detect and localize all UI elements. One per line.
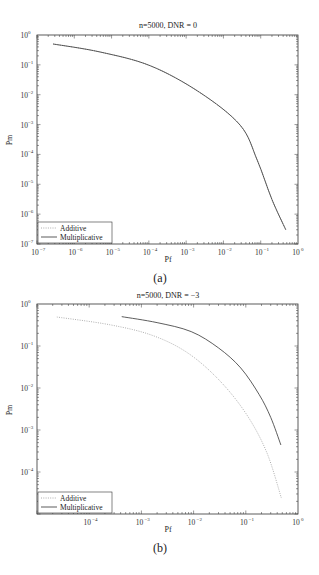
- svg-text:−4: −4: [92, 517, 98, 522]
- svg-text:−5: −5: [115, 247, 121, 252]
- chart-title: n=5000, DNR = −3: [137, 291, 199, 300]
- svg-text:−1: −1: [28, 60, 34, 65]
- x-tick-label: 10: [292, 518, 300, 527]
- svg-text:−5: −5: [28, 179, 34, 184]
- x-tick-label: 10: [69, 248, 77, 257]
- figure-caption: (a): [153, 271, 166, 285]
- x-tick-label: 10: [240, 518, 248, 527]
- x-tick-label: 10: [143, 248, 151, 257]
- x-axis-label: Pf: [164, 255, 171, 264]
- series-multiplicative: [53, 44, 286, 230]
- x-tick-label: 10: [255, 248, 263, 257]
- svg-text:−3: −3: [28, 120, 34, 125]
- x-tick-label: 10: [188, 518, 196, 527]
- svg-text:−6: −6: [28, 209, 34, 214]
- legend: Additive Multiplicative: [38, 492, 112, 513]
- svg-text:−2: −2: [28, 383, 34, 388]
- curves: [53, 44, 286, 230]
- svg-text:−4: −4: [152, 247, 158, 252]
- x-tick-label: 10: [31, 248, 39, 257]
- y-axis-label: Pm: [5, 134, 14, 145]
- svg-text:0: 0: [28, 30, 31, 35]
- svg-text:−2: −2: [197, 517, 203, 522]
- svg-text:−4: −4: [28, 467, 34, 472]
- legend-item-additive: Additive: [60, 224, 87, 233]
- x-tick-label: 10: [218, 248, 226, 257]
- x-tick-label: 10: [106, 248, 114, 257]
- legend-item-multiplicative: Multiplicative: [60, 233, 103, 242]
- x-tick-label: 10: [136, 518, 144, 527]
- svg-text:−7: −7: [28, 239, 34, 244]
- figure: n=5000, DNR = 0 10−710−610−510−410−310−2…: [0, 0, 319, 575]
- svg-text:−4: −4: [28, 149, 34, 154]
- svg-text:−1: −1: [249, 517, 255, 522]
- svg-text:−6: −6: [77, 247, 83, 252]
- legend-item-additive: Additive: [60, 494, 87, 503]
- x-tick-label: 10: [180, 248, 188, 257]
- figure-caption: (b): [153, 541, 167, 555]
- svg-text:0: 0: [301, 247, 304, 252]
- svg-text:−2: −2: [226, 247, 232, 252]
- svg-text:0: 0: [28, 299, 31, 304]
- legend: Additive Multiplicative: [38, 222, 112, 243]
- svg-text:−3: −3: [28, 425, 34, 430]
- plot-area: [37, 304, 298, 514]
- y-axis-label: Pm: [5, 404, 14, 415]
- panel-b: n=5000, DNR = −3 10−410−310−210−11001001…: [5, 291, 304, 555]
- series-additive: [57, 317, 282, 498]
- panel-a: n=5000, DNR = 0 10−710−610−510−410−310−2…: [5, 21, 304, 285]
- curves: [57, 317, 282, 498]
- chart-title: n=5000, DNR = 0: [139, 21, 197, 30]
- svg-text:0: 0: [301, 517, 304, 522]
- svg-text:−3: −3: [189, 247, 195, 252]
- svg-text:−2: −2: [28, 90, 34, 95]
- plot-area: [37, 35, 298, 244]
- svg-text:−7: −7: [40, 247, 46, 252]
- series-additive: [53, 44, 286, 230]
- x-axis-label: Pf: [164, 525, 171, 534]
- svg-text:−3: −3: [144, 517, 150, 522]
- svg-text:−1: −1: [28, 341, 34, 346]
- series-multiplicative: [122, 317, 281, 445]
- x-tick-label: 10: [83, 518, 91, 527]
- legend-item-multiplicative: Multiplicative: [60, 503, 103, 512]
- svg-text:−1: −1: [264, 247, 270, 252]
- x-tick-label: 10: [292, 248, 300, 257]
